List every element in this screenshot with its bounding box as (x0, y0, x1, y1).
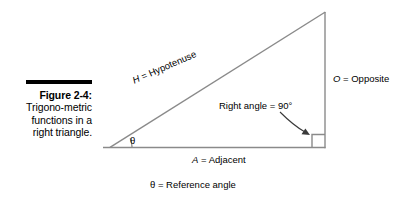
adjacent-label: A = Adjacent (192, 155, 246, 165)
opposite-label: O = Opposite (333, 74, 389, 84)
adjacent-equals: = (198, 154, 208, 165)
right-angle-label: Right angle = 90° (219, 101, 292, 111)
reference-angle-label: θ = Reference angle (150, 180, 236, 190)
right-angle-arrow (280, 112, 305, 132)
diagram-canvas (0, 0, 413, 208)
adjacent-name: Adjacent (209, 154, 246, 165)
right-angle-marker (312, 135, 325, 148)
right-angle-arrowhead (302, 129, 311, 135)
theta-angle-label: θ (130, 136, 135, 146)
opposite-equals: = (340, 73, 351, 84)
opposite-name: Opposite (351, 73, 389, 84)
figure-container: Figure 2-4: Trigono-metric functions in … (0, 0, 413, 208)
